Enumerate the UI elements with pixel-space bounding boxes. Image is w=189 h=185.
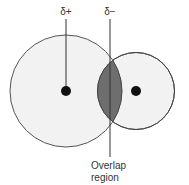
orbital-overlap-diagram: δ+ δ− Overlap region [0,0,189,185]
overlap-label-line1: Overlap [91,160,126,171]
delta-plus-label: δ+ [60,6,72,17]
overlap-label-line2: region [91,172,119,183]
small-atom-nucleus [131,86,141,96]
large-atom-nucleus [61,86,71,96]
delta-minus-label: δ− [104,6,116,17]
